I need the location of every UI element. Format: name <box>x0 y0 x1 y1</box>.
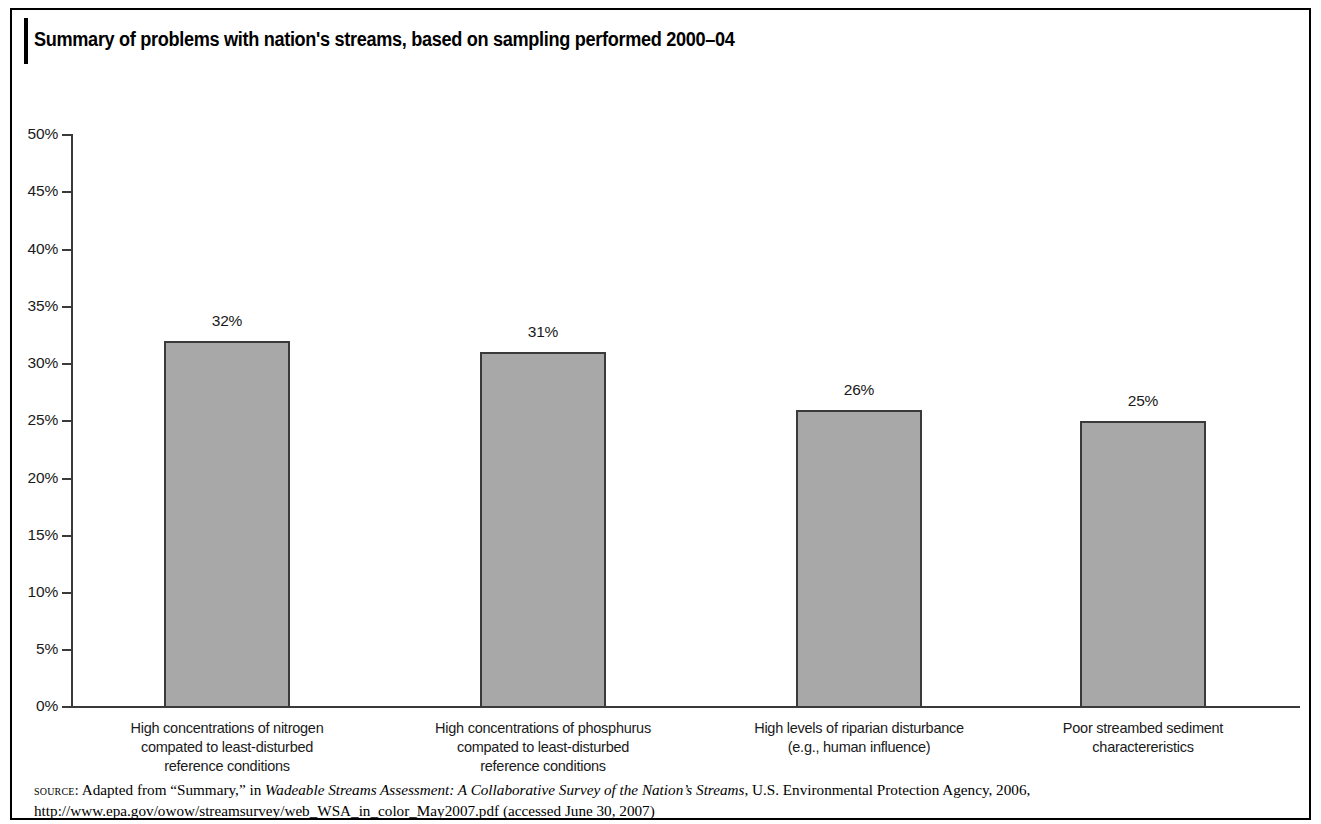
bar-sediment <box>1080 421 1206 708</box>
cat-line: charactereristics <box>993 738 1293 757</box>
bar-value-label: 26% <box>796 381 922 399</box>
y-tick-label: 30% <box>12 354 58 372</box>
source-text-tail: , U.S. Environmental Protection <box>744 781 939 798</box>
x-category-label-phosphorus: High concentrations of phosphurus compat… <box>383 719 703 776</box>
title-bar: Summary of problems with nation's stream… <box>12 10 1309 72</box>
y-tick-label: 40% <box>12 240 58 258</box>
source-text-lead: Adapted from “Summary,” in <box>79 781 265 798</box>
bar-phosphorus <box>480 352 606 708</box>
bar-value-label: 32% <box>164 312 290 330</box>
page-title: Summary of problems with nation's stream… <box>34 28 735 51</box>
y-tick <box>62 706 73 708</box>
cat-line: (e.g., human influence) <box>699 738 1019 757</box>
y-tick-label: 45% <box>12 182 58 200</box>
y-tick <box>62 649 73 651</box>
y-tick <box>62 420 73 422</box>
x-category-label-sediment: Poor streambed sediment charactereristic… <box>993 719 1293 757</box>
y-tick <box>62 592 73 594</box>
bar-value-label: 31% <box>480 323 606 341</box>
cat-line: High concentrations of nitrogen <box>67 719 387 738</box>
y-tick <box>62 191 73 193</box>
y-tick-label: 20% <box>12 469 58 487</box>
y-tick-label: 50% <box>12 125 58 143</box>
bar-nitrogen <box>164 341 290 708</box>
source-title-italic: Wadeable Streams Assessment: A Collabora… <box>265 781 744 798</box>
x-category-label-riparian: High levels of riparian disturbance (e.g… <box>699 719 1019 757</box>
title-accent-rule <box>24 18 28 64</box>
y-tick <box>62 306 73 308</box>
y-tick <box>62 134 73 136</box>
y-tick-label: 35% <box>12 297 58 315</box>
cat-line: compated to least-disturbed <box>67 738 387 757</box>
cat-line: compated to least-disturbed <box>383 738 703 757</box>
cat-line: Poor streambed sediment <box>993 719 1293 738</box>
y-tick-label: 5% <box>12 640 58 658</box>
y-tick-label: 15% <box>12 526 58 544</box>
y-tick <box>62 363 73 365</box>
y-tick-label: 25% <box>12 411 58 429</box>
y-tick <box>62 249 73 251</box>
cat-line: High concentrations of phosphurus <box>383 719 703 738</box>
bar-value-label: 25% <box>1080 392 1206 410</box>
y-tick <box>62 535 73 537</box>
bar-riparian <box>796 410 922 708</box>
figure-frame: Summary of problems with nation's stream… <box>10 8 1311 820</box>
y-tick <box>62 478 73 480</box>
y-tick-label: 10% <box>12 583 58 601</box>
source-label: source: <box>34 783 79 798</box>
cat-line: reference conditions <box>383 757 703 776</box>
source-note: source: Adapted from “Summary,” in Wadea… <box>34 780 1296 821</box>
cat-line: High levels of riparian disturbance <box>699 719 1019 738</box>
plot-area: 50% 45% 40% 35% 30% 25% 20% 15% 10% 5% 0… <box>12 72 1309 772</box>
x-category-label-nitrogen: High concentrations of nitrogen compated… <box>67 719 387 776</box>
y-tick-label: 0% <box>12 697 58 715</box>
cat-line: reference conditions <box>67 757 387 776</box>
